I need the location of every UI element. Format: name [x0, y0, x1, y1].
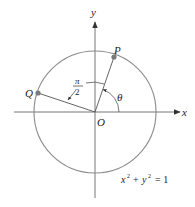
point-q-label: Q [25, 87, 33, 99]
theta-label: θ [117, 91, 123, 103]
point-p-label: P [113, 44, 121, 56]
segment-oq [38, 93, 95, 112]
svg-text:y: y [141, 174, 147, 185]
svg-text:2: 2 [127, 173, 130, 179]
circle-equation: x 2 + y 2 = 1 [120, 173, 168, 185]
point-q [35, 90, 40, 95]
pi-over-two-denominator: 2 [75, 87, 80, 97]
unit-circle-diagram: y x O P Q θ π 2 x 2 + y 2 = 1 [0, 0, 195, 207]
origin-label: O [97, 116, 105, 128]
svg-text:= 1: = 1 [155, 174, 168, 185]
segment-op [95, 57, 114, 112]
svg-text:2: 2 [148, 173, 151, 179]
y-axis-label: y [90, 6, 96, 18]
pi-over-two-numerator: π [75, 76, 80, 86]
x-axis-label: x [181, 106, 187, 118]
svg-text:x: x [120, 174, 126, 185]
svg-text:+: + [133, 174, 139, 185]
